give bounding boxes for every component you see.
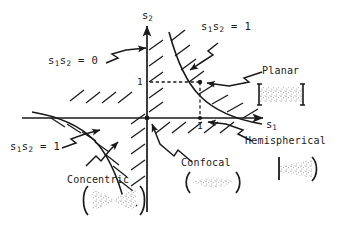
diagram-vector-layer [0, 0, 353, 225]
leader-concentric [86, 142, 118, 166]
x-axis-label: s1 [266, 119, 277, 132]
concentric-left-mirror [84, 186, 89, 215]
x-axis-tick-1: 1 [197, 121, 203, 131]
origin-dot [145, 116, 150, 121]
cavity-label-hemispherical: Hemispherical [245, 136, 326, 146]
unit-point-dot [198, 80, 202, 84]
leader-planar-to-point [207, 72, 262, 86]
leader-eq-zero-to-y-axis [106, 48, 146, 63]
annotation-s1s2-equals-1-lower: s1s2 = 1 [10, 141, 60, 154]
cavity-icon-confocal [186, 172, 240, 193]
y-axis-tick-1: 1 [137, 77, 143, 87]
leader-eq-one-upper-to-curve [190, 43, 218, 70]
annotation-s1s2-equals-1-upper: s1s2 = 1 [201, 21, 251, 34]
confocal-left-mirror [186, 172, 190, 193]
hemispherical-right-mirror [312, 157, 317, 181]
hatching-y-axis-lower [131, 114, 145, 186]
cavity-label-confocal: Confocal [181, 158, 231, 168]
hatching-x-axis-left [70, 90, 132, 103]
cavity-icon-planar [257, 84, 305, 105]
concentric-right-mirror [140, 186, 145, 215]
confocal-right-mirror [236, 172, 240, 193]
annotation-s1s2-equals-0: s1s2 = 0 [48, 55, 98, 68]
cavity-label-planar: Planar [262, 66, 299, 76]
cavity-icon-concentric [84, 186, 145, 215]
leader-eq-zero [106, 48, 146, 63]
leader-eq-one-upper [190, 43, 218, 70]
leader-planar [207, 72, 262, 86]
hatching-y-axis-upper [149, 40, 163, 112]
leader-concentric-to-point [86, 142, 118, 166]
cavity-icon-hemispherical [279, 157, 317, 181]
y-axis-label: s2 [142, 10, 153, 23]
cavity-label-concentric: Concentric [67, 175, 129, 185]
stability-diagram-figure: s2 s1 1 1 s1s2 = 0 s1s2 = 1 s1s2 = 1 Pla… [0, 0, 353, 225]
